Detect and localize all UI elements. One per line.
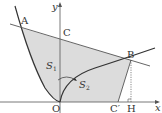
y-axis-arrow-icon <box>58 2 62 7</box>
label-x-axis: x <box>155 102 161 113</box>
right-angle-mark <box>128 99 131 102</box>
label-s2-sub: 2 <box>86 84 90 91</box>
label-h: H <box>127 103 136 113</box>
label-origin: O <box>52 103 60 113</box>
math-diagram: A C B C′ H O x y S 1 S 2 <box>0 0 162 113</box>
label-c-prime: C′ <box>110 103 121 113</box>
shaded-region <box>21 28 131 102</box>
label-c: C <box>63 27 71 38</box>
label-s2: S <box>79 79 86 90</box>
label-b: B <box>127 49 134 60</box>
label-y-axis: y <box>51 1 58 12</box>
label-s1-sub: 1 <box>53 65 57 72</box>
label-a: A <box>20 15 29 26</box>
label-s1: S <box>46 60 53 71</box>
